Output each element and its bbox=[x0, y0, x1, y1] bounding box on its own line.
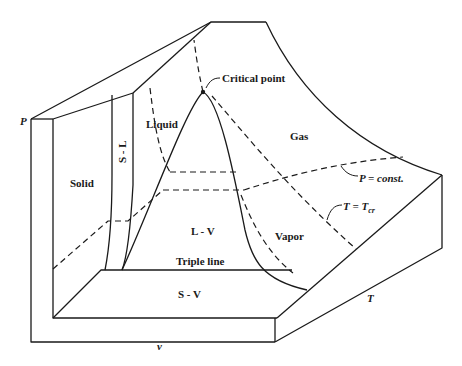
label-solid-vapor: S - V bbox=[178, 288, 201, 300]
critical-point-leader bbox=[206, 78, 220, 88]
critical-point-marker bbox=[201, 90, 205, 94]
pvt-surface-diagram: P v T Solid Solid S - L Liquid Gas L - V… bbox=[0, 0, 462, 366]
axis-label-v: v bbox=[157, 340, 162, 352]
label-critical-point: Critical point bbox=[222, 72, 286, 84]
label-liquid-vapor: L - V bbox=[191, 225, 215, 237]
isotherm-leader bbox=[327, 205, 342, 220]
diagram-svg: P v T Solid Solid S - L Liquid Gas L - V… bbox=[0, 0, 462, 366]
axis-label-t: T bbox=[367, 292, 375, 304]
label-solid-liquid: S - L bbox=[116, 140, 128, 163]
label-critical-isotherm: T = Tcr bbox=[343, 200, 376, 215]
label-vapor: Vapor bbox=[275, 230, 304, 242]
axis-label-p: P bbox=[20, 115, 27, 127]
label-liquid: Liquid bbox=[146, 118, 178, 130]
label-gas: Gas bbox=[290, 130, 309, 142]
label-solid-visible: Solid bbox=[70, 177, 94, 189]
label-isobar: P = const. bbox=[359, 172, 404, 184]
isobar-leader bbox=[341, 166, 358, 176]
label-triple-line: Triple line bbox=[176, 255, 224, 267]
